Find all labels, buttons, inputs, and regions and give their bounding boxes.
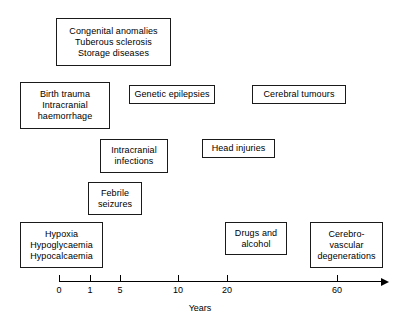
cause-box-label-line: alcohol [241,239,270,250]
cause-box-label-line: Congenital anomalies [69,26,157,37]
cause-box-label-line: vascular [329,240,363,251]
cause-box-genetic-epilepsies: Genetic epilepsies [129,85,215,104]
axis-arrow-icon [381,278,389,286]
axis-tick-mark [120,275,121,281]
cause-box-label-line: Intracranial [42,100,88,111]
cause-box-label-line: degenerations [317,251,375,262]
axis-tick-label: 60 [332,285,342,295]
axis-tick-label: 1 [87,285,92,295]
axis-tick-mark [178,275,179,281]
axis-tick-label: 5 [117,285,122,295]
axis-tick-mark [59,275,60,281]
axis-tick-label: 20 [222,285,232,295]
axis-title: Years [189,303,212,313]
cause-box-cerebral-tumours: Cerebral tumours [252,85,346,104]
cause-box-hypoxia-hypoglycaemia-hypocalcaemia: HypoxiaHypoglycaemiaHypocalcaemia [20,222,103,268]
cause-box-head-injuries: Head injuries [202,139,275,158]
cause-box-label-line: Tuberous sclerosis [75,37,152,48]
cause-box-label-line: Hypoglycaemia [30,240,93,251]
cause-box-label-line: Intracranial [111,145,157,156]
axis-tick-label: 10 [173,285,183,295]
axis-tick-mark [227,275,228,281]
cause-box-intracranial-infections: Intracranialinfections [100,139,168,173]
cause-box-label-line: Cerebral tumours [264,89,335,100]
axis-line [59,281,386,282]
cause-box-birth-trauma: Birth traumaIntracranialhaemorrhage [20,82,110,129]
cause-box-febrile-seizures: Febrileseizures [88,182,142,215]
cause-box-label-line: haemorrhage [38,111,93,122]
cause-box-label-line: seizures [98,199,132,210]
cause-box-label-line: Head injuries [212,143,266,154]
axis-tick-mark [337,275,338,281]
cause-box-cerebrovascular-degenerations: Cerebro-vasculardegenerations [310,222,383,268]
cause-box-label-line: Hypoxia [45,229,78,240]
cause-box-label-line: infections [115,156,154,167]
cause-box-label-line: Genetic epilepsies [134,89,209,100]
axis-tick-mark [90,275,91,281]
cause-box-label-line: Hypocalcaemia [30,251,93,262]
epilepsy-causes-timeline-diagram: Congenital anomaliesTuberous sclerosisSt… [0,0,399,324]
cause-box-label-line: Birth trauma [40,89,90,100]
cause-box-congenital-anomalies: Congenital anomaliesTuberous sclerosisSt… [56,18,171,66]
axis-tick-label: 0 [56,285,61,295]
cause-box-label-line: Drugs and [235,228,277,239]
cause-box-label-line: Febrile [101,188,129,199]
cause-box-label-line: Storage diseases [78,48,149,59]
cause-box-label-line: Cerebro- [328,229,364,240]
cause-box-drugs-and-alcohol: Drugs andalcohol [225,222,287,255]
